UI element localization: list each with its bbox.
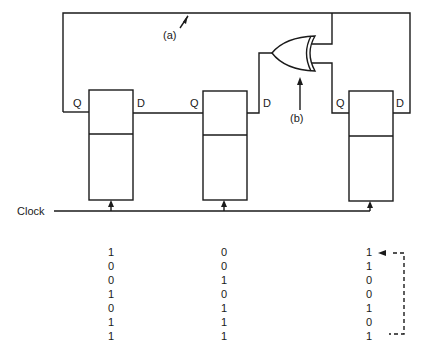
cell: 0 [362, 287, 376, 301]
flip-flop-3 [349, 91, 393, 201]
cell: 1 [104, 287, 118, 301]
label-a: (a) [163, 30, 176, 41]
cell: 0 [104, 259, 118, 273]
cell: 1 [104, 329, 118, 343]
cell: 0 [217, 287, 231, 301]
cycle-dashed-line [389, 253, 404, 334]
cell: 1 [362, 329, 376, 343]
ff1-q-label: Q [73, 98, 82, 109]
ff2-q-label: Q [190, 98, 199, 109]
cell: 1 [104, 245, 118, 259]
ff3-d-label: D [396, 98, 404, 109]
flip-flop-1 [89, 90, 133, 200]
cell: 1 [217, 273, 231, 287]
cycle-arrowhead [378, 250, 386, 256]
cell: 0 [217, 259, 231, 273]
cell: 1 [362, 259, 376, 273]
clock-arrow-3 [367, 201, 373, 208]
ff3-q-label: Q [336, 98, 345, 109]
cell: 1 [362, 245, 376, 259]
state-column-3: 1 1 0 0 1 0 1 [362, 245, 376, 343]
cell: 0 [362, 315, 376, 329]
cell: 0 [104, 301, 118, 315]
cell: 1 [104, 315, 118, 329]
ff2-d-label: D [263, 98, 271, 109]
cell: 0 [362, 273, 376, 287]
cell: 1 [217, 329, 231, 343]
cell: 1 [362, 301, 376, 315]
clock-arrow-1 [108, 200, 114, 207]
clock-label: Clock [17, 206, 45, 217]
cell: 1 [217, 315, 231, 329]
flip-flop-2 [203, 91, 247, 200]
cell: 1 [217, 301, 231, 315]
arrowhead-b [297, 77, 303, 85]
feedback-line-a [63, 13, 410, 113]
ff1-d-label: D [137, 98, 145, 109]
state-column-2: 0 0 1 0 1 1 1 [217, 245, 231, 343]
clock-arrow-2 [221, 200, 227, 207]
state-column-1: 1 0 0 1 0 1 1 [104, 245, 118, 343]
label-b: (b) [290, 113, 303, 124]
cell: 0 [217, 245, 231, 259]
cell: 0 [104, 273, 118, 287]
